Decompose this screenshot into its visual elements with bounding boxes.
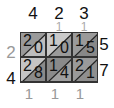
cell-ones-digit: 0	[34, 40, 43, 56]
cell-ones-digit: 4	[60, 65, 69, 81]
bottom-result-3: 1	[74, 86, 86, 101]
cell-tens-digit: 1	[49, 58, 58, 74]
right-digit-1: 5	[97, 36, 111, 53]
lattice-grid: 2 0 1 0 1 5 2 8 1 4 2 1	[20, 32, 98, 83]
top-digit-1: 4	[26, 5, 40, 22]
cell-r1-c3: 1 5	[72, 32, 98, 57]
cell-tens-digit: 2	[23, 33, 32, 49]
cell-r1-c2: 1 0	[46, 32, 72, 57]
cell-ones-digit: 8	[34, 65, 43, 81]
bottom-result-1: 1	[23, 86, 35, 101]
cell-r1-c1: 2 0	[20, 32, 46, 57]
cell-ones-digit: 5	[86, 40, 95, 56]
left-result-2: 4	[4, 70, 18, 87]
cell-ones-digit: 0	[60, 40, 69, 56]
left-result-1: 2	[4, 44, 18, 61]
cell-tens-digit: 2	[23, 58, 32, 74]
cell-tens-digit: 1	[75, 33, 84, 49]
cell-tens-digit: 2	[75, 58, 84, 74]
cell-ones-digit: 1	[86, 65, 95, 81]
cell-tens-digit: 1	[49, 33, 58, 49]
cell-r2-c1: 2 8	[20, 57, 46, 82]
right-digit-2: 7	[97, 62, 111, 79]
cell-r2-c2: 1 4	[46, 57, 72, 82]
bottom-result-2: 1	[49, 86, 61, 101]
cell-r2-c3: 2 1	[72, 57, 98, 82]
